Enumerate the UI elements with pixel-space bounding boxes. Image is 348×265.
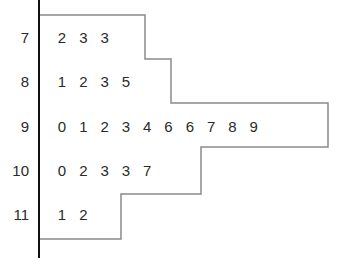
stem-label: 9 <box>0 118 29 135</box>
leaf-value: 7 <box>140 162 154 179</box>
stem-label: 10 <box>0 162 29 179</box>
stem-label: 11 <box>0 206 29 223</box>
leaf-value: 6 <box>183 118 197 135</box>
stem-label: 7 <box>0 29 29 46</box>
leaf-value: 5 <box>119 73 133 90</box>
leaf-value: 3 <box>98 29 112 46</box>
leaf-value: 1 <box>76 118 90 135</box>
leaf-value: 3 <box>119 162 133 179</box>
leaf-value: 4 <box>140 118 154 135</box>
leaf-value: 2 <box>76 73 90 90</box>
leaf-value: 3 <box>76 29 90 46</box>
leaf-value: 3 <box>98 162 112 179</box>
leaf-value: 7 <box>204 118 218 135</box>
leaf-value: 2 <box>98 118 112 135</box>
leaf-value: 9 <box>247 118 261 135</box>
stem-and-leaf-plot: 7233812359012346678910023371112 <box>0 0 348 265</box>
leaf-value: 1 <box>55 73 69 90</box>
leaf-value: 3 <box>119 118 133 135</box>
leaf-value: 8 <box>225 118 239 135</box>
leaf-value: 6 <box>162 118 176 135</box>
leaf-value: 3 <box>98 73 112 90</box>
leaf-value: 2 <box>55 29 69 46</box>
leaf-value: 2 <box>76 162 90 179</box>
stem-label: 8 <box>0 73 29 90</box>
leaf-value: 2 <box>76 206 90 223</box>
leaf-value: 0 <box>55 162 69 179</box>
leaf-value: 0 <box>55 118 69 135</box>
leaf-value: 1 <box>55 206 69 223</box>
